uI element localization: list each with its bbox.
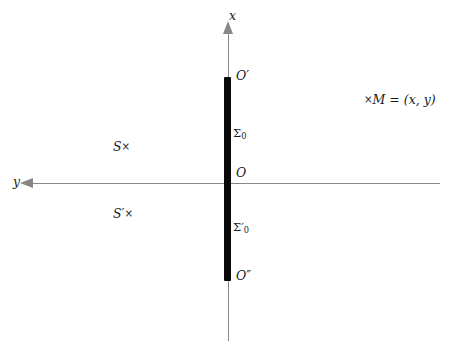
thick-segment-bar [224, 77, 231, 281]
cross-marker-icon: × [124, 207, 133, 219]
label-sigma-zero-upper: Σ0 [233, 128, 246, 141]
cross-marker-icon: × [122, 140, 131, 152]
point-label-o-double-prime: O″ [236, 270, 251, 283]
label-source-s: S× [113, 141, 130, 154]
point-label-o-prime: O′ [236, 70, 249, 83]
point-label-origin: O [236, 167, 246, 180]
point-m-text: M = (x, y) [373, 92, 436, 107]
label-sigma-zero-lower: Σ′0 [233, 222, 249, 235]
y-axis-label: y [13, 176, 20, 189]
sigma-lower-subscript: 0 [244, 225, 249, 235]
y-axis-line [22, 183, 440, 184]
label-source-s-prime: S′× [113, 208, 133, 221]
cross-marker-icon: × [364, 93, 373, 105]
coordinate-diagram: x y O′ O O″ Σ0 Σ′0 S× S′× ×M = (x, y) [0, 0, 451, 355]
y-axis-arrow-icon [20, 178, 33, 188]
x-axis-label: x [229, 10, 236, 23]
prime-mark: ′ [246, 68, 249, 83]
double-prime-mark: ″ [246, 268, 251, 283]
label-point-m: ×M = (x, y) [364, 94, 436, 107]
sigma-upper-subscript: 0 [241, 131, 246, 141]
